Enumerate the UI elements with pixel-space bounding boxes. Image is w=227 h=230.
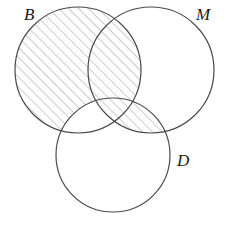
set-label-m: M — [196, 6, 210, 23]
venn-diagram-figure: B M D — [0, 0, 227, 230]
set-label-b: B — [24, 6, 34, 23]
venn-diagram-canvas — [0, 0, 227, 230]
set-label-d: D — [177, 152, 189, 169]
